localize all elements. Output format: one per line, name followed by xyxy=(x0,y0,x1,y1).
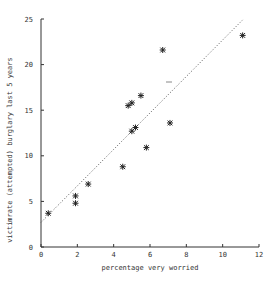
asterisk-marker xyxy=(240,32,246,38)
x-axis-label: percentage very worried xyxy=(102,264,199,272)
regression-line xyxy=(41,20,243,222)
asterisk-marker xyxy=(167,120,173,126)
asterisk-marker xyxy=(160,47,166,53)
data-points xyxy=(45,32,245,216)
asterisk-marker xyxy=(73,200,79,206)
y-tick-label: 5 xyxy=(29,198,33,206)
asterisk-marker xyxy=(143,145,149,151)
asterisk-marker xyxy=(125,103,131,109)
asterisk-marker xyxy=(138,93,144,99)
y-axis-label: victimrate (attempted) burglary last 5 y… xyxy=(6,57,14,242)
scatter-chart: 024681012 0510152025 percentage very wor… xyxy=(0,0,277,284)
asterisk-marker xyxy=(132,125,138,131)
y-tick-label: 10 xyxy=(25,152,33,160)
x-tick-label: 8 xyxy=(184,251,188,259)
asterisk-marker xyxy=(45,210,51,216)
asterisk-marker xyxy=(73,193,79,199)
x-ticks: 024681012 xyxy=(39,244,263,259)
y-tick-label: 25 xyxy=(25,16,33,24)
x-tick-label: 12 xyxy=(255,251,263,259)
y-tick-label: 20 xyxy=(25,61,33,69)
x-tick-label: 10 xyxy=(218,251,226,259)
axes xyxy=(41,19,259,247)
x-tick-label: 6 xyxy=(148,251,152,259)
x-tick-label: 4 xyxy=(112,251,116,259)
x-tick-label: 0 xyxy=(39,251,43,259)
x-tick-label: 2 xyxy=(75,251,79,259)
y-tick-label: 15 xyxy=(25,107,33,115)
asterisk-marker xyxy=(85,181,91,187)
asterisk-marker xyxy=(120,164,126,170)
y-tick-label: 0 xyxy=(29,244,33,252)
asterisk-marker xyxy=(129,100,135,106)
